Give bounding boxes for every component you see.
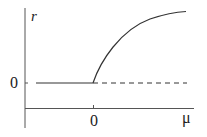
stable-nonzero-branch xyxy=(93,12,186,84)
x-tick-label: 0 xyxy=(90,113,98,129)
y-axis-label: r xyxy=(31,9,37,24)
x-axis-label: μ xyxy=(182,110,191,126)
y-tick-label: 0 xyxy=(10,75,18,91)
